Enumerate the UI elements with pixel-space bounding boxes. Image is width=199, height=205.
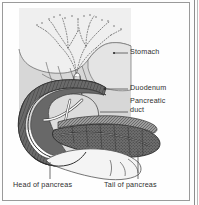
anatomy-figure: Stomach Duodenum Pancreatic duct Head of…: [0, 0, 199, 205]
label-pancreatic-duct-line2: duct: [130, 106, 144, 115]
page-edge-line-outer: [197, 0, 198, 205]
leader-dot-duodenum: [104, 88, 106, 90]
label-tail-of-pancreas: Tail of pancreas: [104, 181, 157, 190]
leader-dot-stomach: [113, 52, 115, 54]
page-edge-line-inner: [194, 0, 195, 205]
label-stomach: Stomach: [130, 48, 159, 57]
label-duodenum: Duodenum: [130, 84, 166, 93]
label-head-of-pancreas: Head of pancreas: [13, 181, 72, 190]
